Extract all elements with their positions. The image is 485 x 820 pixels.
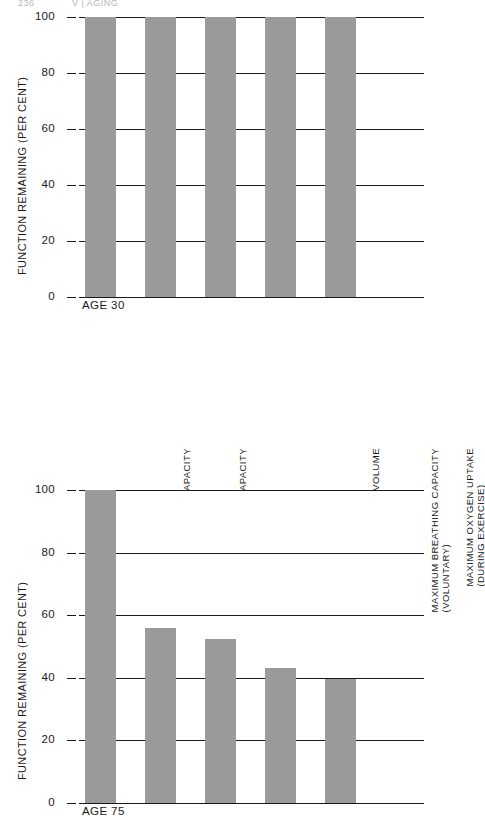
bar-age-75-4 bbox=[325, 679, 356, 803]
y-tick-label-0: 0 bbox=[21, 796, 55, 808]
bar-age-75-1 bbox=[145, 628, 176, 803]
gridline-0 bbox=[79, 803, 424, 804]
bar-age-30-3 bbox=[265, 17, 296, 297]
tick-dash-80 bbox=[67, 73, 76, 74]
tick-dash-80 bbox=[67, 553, 76, 554]
y-tick-label-40: 40 bbox=[21, 178, 55, 190]
gridline-40 bbox=[79, 185, 424, 186]
tick-dash-100 bbox=[67, 17, 76, 18]
tick-dash-0 bbox=[67, 803, 76, 804]
category-label-max-oxygen-uptake: MAXIMUM OXYGEN UPTAKE (DURING EXERCISE) bbox=[463, 448, 485, 587]
gridline-80 bbox=[79, 553, 424, 554]
plot-area-age-30 bbox=[79, 17, 424, 297]
y-tick-label-20: 20 bbox=[21, 234, 55, 246]
category-label-max-breathing-capacity: MAXIMUM BREATHING CAPACITY (VOLUNTARY) bbox=[429, 448, 451, 612]
tick-dash-20 bbox=[67, 740, 76, 741]
plot-area-age-75 bbox=[79, 490, 424, 803]
y-tick-label-60: 60 bbox=[21, 122, 55, 134]
x-axis-label-age-75: AGE 75 bbox=[82, 805, 125, 817]
bar-age-30-1 bbox=[145, 17, 176, 297]
gridline-60 bbox=[79, 615, 424, 616]
bar-age-30-4 bbox=[325, 17, 356, 297]
tick-dash-60 bbox=[67, 129, 76, 130]
y-tick-label-40: 40 bbox=[21, 671, 55, 683]
gridline-60 bbox=[79, 129, 424, 130]
y-tick-label-80: 80 bbox=[21, 546, 55, 558]
y-tick-label-100: 100 bbox=[21, 483, 55, 495]
gridline-0 bbox=[79, 297, 424, 298]
y-tick-label-20: 20 bbox=[21, 733, 55, 745]
gridline-80 bbox=[79, 73, 424, 74]
tick-dash-20 bbox=[67, 241, 76, 242]
y-tick-label-100: 100 bbox=[21, 10, 55, 22]
bar-age-75-3 bbox=[265, 668, 296, 803]
gridline-20 bbox=[79, 241, 424, 242]
category-label-band: TOTAL CAPACITY VITAL CAPACITY MAXIMUM VE… bbox=[0, 318, 429, 448]
y-tick-label-60: 60 bbox=[21, 608, 55, 620]
y-tick-label-0: 0 bbox=[21, 290, 55, 302]
gridline-40 bbox=[79, 678, 424, 679]
y-tick-label-80: 80 bbox=[21, 66, 55, 78]
chart-age-75: FUNCTION REMAINING (PER CENT) AGE 75 020… bbox=[0, 460, 429, 820]
tick-dash-40 bbox=[67, 678, 76, 679]
tick-dash-40 bbox=[67, 185, 76, 186]
tick-dash-0 bbox=[67, 297, 76, 298]
gridline-100 bbox=[79, 490, 424, 491]
bar-age-30-2 bbox=[205, 17, 236, 297]
gridline-100 bbox=[79, 17, 424, 18]
bar-age-75-0 bbox=[85, 490, 116, 803]
gridline-20 bbox=[79, 740, 424, 741]
chart-age-30: FUNCTION REMAINING (PER CENT) AGE 30 020… bbox=[0, 0, 429, 300]
tick-dash-60 bbox=[67, 615, 76, 616]
bar-age-75-2 bbox=[205, 639, 236, 803]
bar-age-30-0 bbox=[85, 17, 116, 297]
x-axis-label-age-30: AGE 30 bbox=[82, 299, 125, 311]
tick-dash-100 bbox=[67, 490, 76, 491]
